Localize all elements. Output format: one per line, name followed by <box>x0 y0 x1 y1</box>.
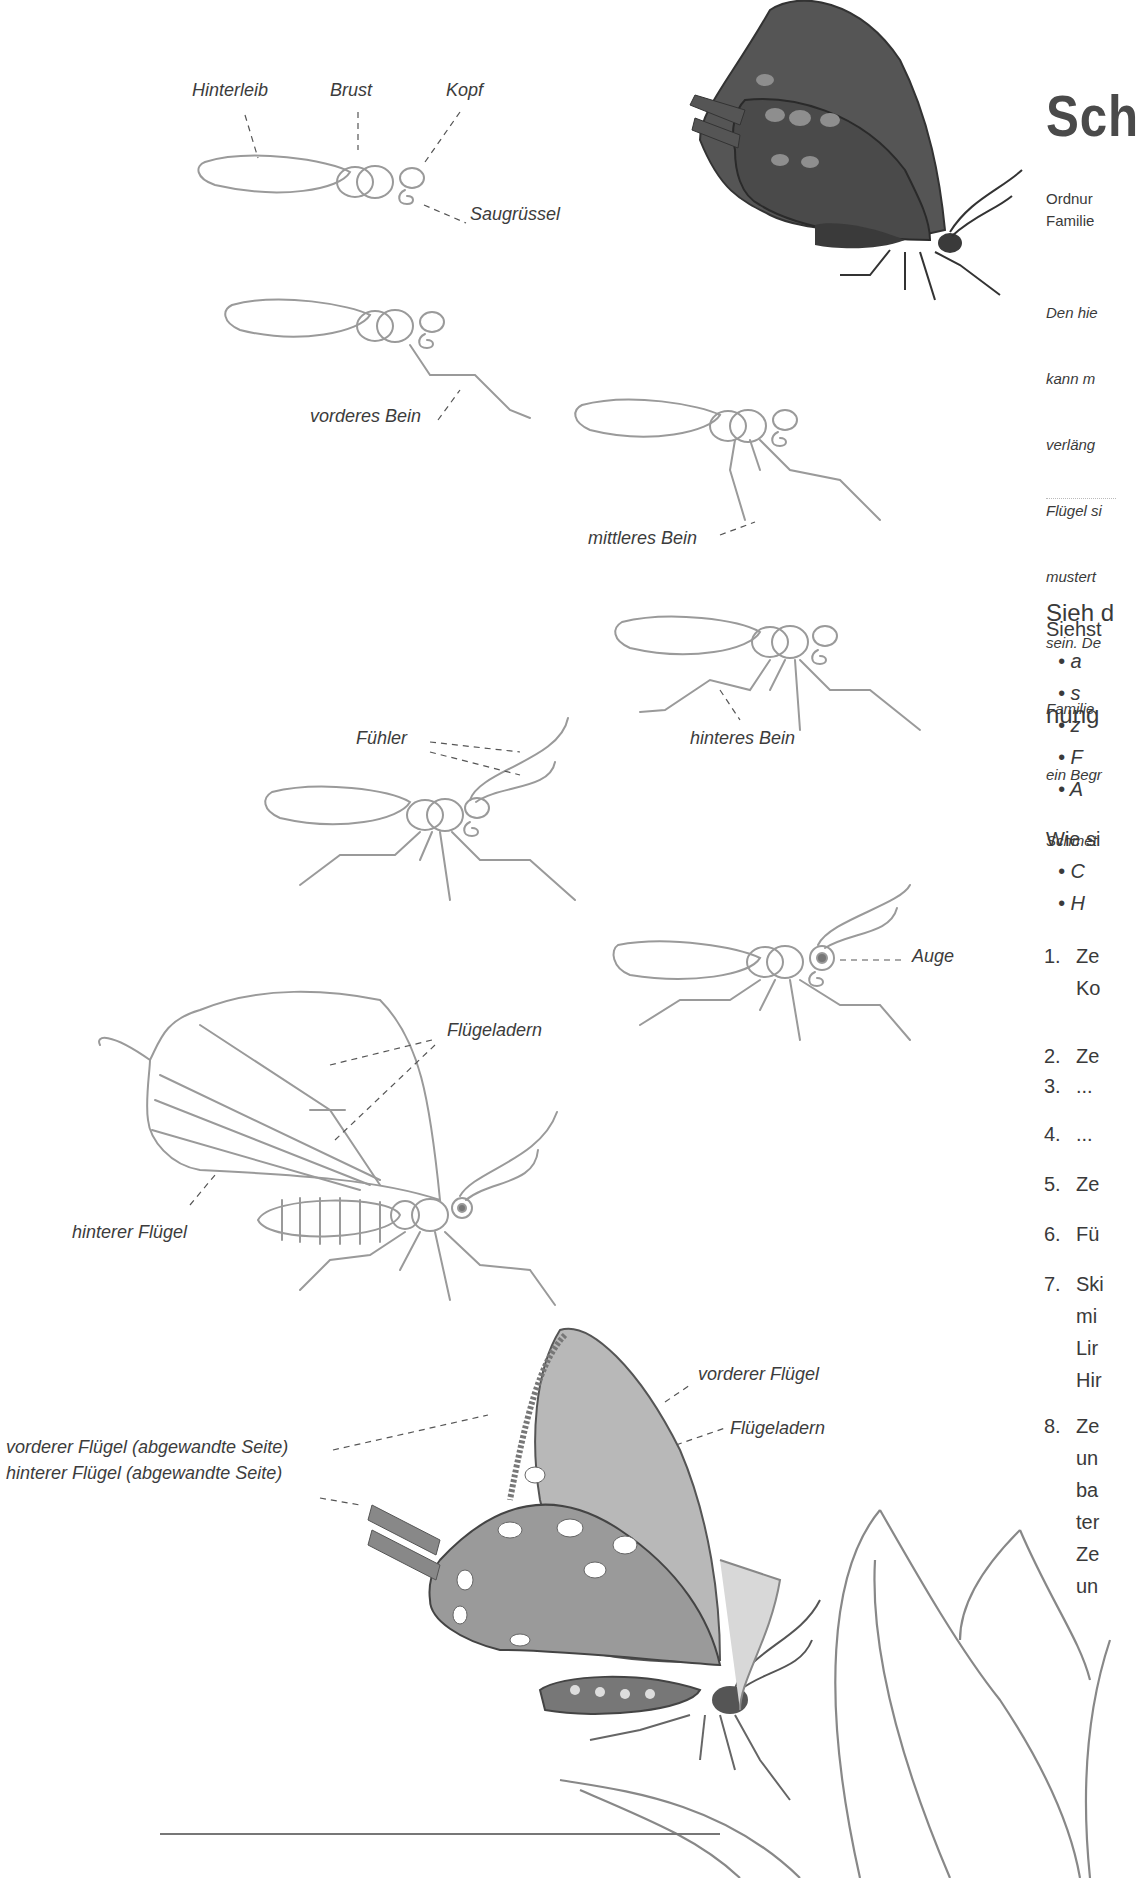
step-2: 2.Ze <box>1044 1040 1099 1072</box>
label-front-wing: vorderer Flügel <box>698 1364 819 1385</box>
label-wing-veins: Flügeladern <box>730 1418 825 1439</box>
step-5: 5.Ze <box>1044 1168 1099 1200</box>
sketch-step4 <box>615 617 920 730</box>
step-4: 4.... <box>1044 1118 1093 1150</box>
bullet-item: • C <box>1058 860 1085 883</box>
bullet-item: • F <box>1058 746 1083 769</box>
page-title: Sch <box>1046 82 1139 149</box>
meta-order: Ordnur <box>1046 190 1093 207</box>
label-thorax: Brust <box>330 80 372 101</box>
bullet-item: • H <box>1058 892 1085 915</box>
bullet-item: • a <box>1058 650 1082 673</box>
sketch-step6 <box>614 885 910 1040</box>
illustration-top-butterfly <box>690 1 1022 300</box>
label-front-leg: vorderes Bein <box>310 406 421 427</box>
footer-rule <box>160 1833 720 1835</box>
illustration-final-butterfly <box>368 1329 820 1800</box>
step-6: 6.Fü <box>1044 1218 1099 1250</box>
divider <box>1046 498 1116 499</box>
question-1: Siehst <box>1046 618 1102 641</box>
label-hind-wing: hinterer Flügel <box>72 1222 187 1243</box>
sketch-step5 <box>265 718 575 900</box>
label-abdomen: Hinterleib <box>192 80 268 101</box>
bullet-item: • z <box>1058 714 1081 737</box>
sketch-step1 <box>198 156 424 204</box>
step-7: 7.Ski mi Lir Hir <box>1044 1268 1104 1396</box>
label-antennae: Fühler <box>356 728 407 749</box>
bullet-item: • s <box>1058 682 1081 705</box>
label-proboscis: Saugrüssel <box>470 204 560 225</box>
sketch-step2 <box>225 300 530 418</box>
label-hind-leg: hinteres Bein <box>690 728 795 749</box>
bullet-item: • A <box>1058 778 1083 801</box>
label-wing-veins-sketch: Flügeladern <box>447 1020 542 1041</box>
label-middle-leg: mittleres Bein <box>588 528 697 549</box>
question-2: Wie si <box>1046 828 1100 851</box>
sketch-step3 <box>575 400 880 520</box>
step-1: 1.Ze Ko <box>1044 940 1100 1004</box>
meta-family: Familie <box>1046 212 1094 229</box>
label-head: Kopf <box>446 80 483 101</box>
label-hind-wing-far-side: hinterer Flügel (abgewandte Seite) <box>6 1463 282 1484</box>
step-8: 8.Ze un ba ter Ze un <box>1044 1410 1099 1602</box>
label-front-wing-far-side: vorderer Flügel (abgewandte Seite) <box>6 1437 288 1458</box>
label-eye: Auge <box>912 946 954 967</box>
step-3: 3.... <box>1044 1070 1093 1102</box>
